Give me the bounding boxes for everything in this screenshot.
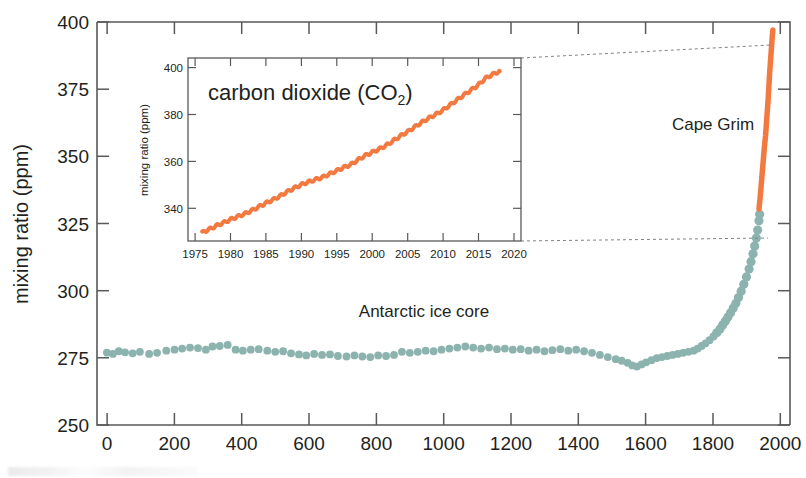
ice-core-point <box>517 345 525 353</box>
ice-core-point <box>604 353 612 361</box>
ice-core-point <box>374 352 382 360</box>
ice-core-point <box>209 343 217 351</box>
ice-core-point <box>334 352 342 360</box>
main-xtick-2000: 2000 <box>759 433 801 454</box>
ice-core-point <box>753 225 762 234</box>
ice-core-point <box>398 348 406 356</box>
ice-core-point <box>556 345 564 353</box>
main-y-axis-title: mixing ratio (ppm) <box>10 144 32 304</box>
ice-core-point <box>216 342 224 350</box>
ice-core-point <box>414 348 422 356</box>
main-xtick-600: 600 <box>293 433 325 454</box>
ice-core-point <box>271 348 279 356</box>
ice-core-point <box>564 347 572 355</box>
inset-xtick-2000: 2000 <box>359 248 385 260</box>
inset-xtick-1975: 1975 <box>182 248 208 260</box>
ice-core-point <box>422 347 430 355</box>
ice-core-point <box>136 348 144 356</box>
ice-core-point <box>469 344 477 352</box>
ice-core-point <box>596 351 604 359</box>
ice-core-point <box>287 349 295 357</box>
cape-grim-series <box>759 30 773 209</box>
inset-title-subscript: 2 <box>398 92 406 108</box>
ice-core-point <box>588 349 596 357</box>
ice-core-point <box>178 345 186 353</box>
ice-core-point <box>390 351 398 359</box>
inset-y-ticklabels: 340 360 380 400 <box>164 62 183 215</box>
inset-ytick-360: 360 <box>164 156 183 168</box>
ice-core-point <box>162 347 170 355</box>
main-ytick-375: 375 <box>57 79 89 100</box>
main-xtick-0: 0 <box>102 433 113 454</box>
ice-core-point <box>430 347 438 355</box>
inset-axes: 340 360 380 400 <box>138 58 527 260</box>
cape-grim-label: Cape Grim <box>672 115 754 134</box>
inset-y-axis-title: mixing ratio (ppm) <box>138 104 150 196</box>
inset-xtick-1980: 1980 <box>218 248 244 260</box>
ice-core-point <box>446 345 454 353</box>
inset-title: carbon dioxide (CO2) <box>208 80 413 108</box>
ice-core-point <box>129 349 137 357</box>
ice-core-point <box>224 341 232 349</box>
ice-core-point <box>485 344 493 352</box>
main-x-ticklabels: 0 200 400 600 800 1000 1200 1400 1600 18… <box>102 433 802 454</box>
inset-xtick-1995: 1995 <box>324 248 350 260</box>
ice-core-point <box>493 345 501 353</box>
ice-core-point <box>318 351 326 359</box>
connector-bottom <box>521 238 768 241</box>
inset-x-ticklabels: 1975 1980 1985 1990 1995 2000 2005 2010 … <box>182 248 526 260</box>
main-ytick-400: 400 <box>57 12 89 33</box>
ice-core-point <box>263 347 271 355</box>
main-ytick-300: 300 <box>57 281 89 302</box>
main-ytick-275: 275 <box>57 348 89 369</box>
main-ytick-250: 250 <box>57 415 89 436</box>
ice-core-point <box>194 344 202 352</box>
ice-core-point <box>453 344 461 352</box>
ice-core-point <box>549 346 557 354</box>
inset-ytick-340: 340 <box>164 203 183 215</box>
ice-core-point <box>351 352 359 360</box>
main-xtick-800: 800 <box>361 433 393 454</box>
main-xtick-1600: 1600 <box>624 433 666 454</box>
ice-core-point <box>580 347 588 355</box>
ice-core-point <box>295 351 303 359</box>
page-edge-artifact <box>8 467 198 476</box>
ice-core-point <box>750 241 759 250</box>
main-ytick-350: 350 <box>57 146 89 167</box>
ice-core-point <box>533 346 541 354</box>
main-y-ticklabels: 250 275 300 325 350 375 400 <box>57 12 89 436</box>
ice-core-point <box>186 344 194 352</box>
inset-xtick-1985: 1985 <box>253 248 279 260</box>
inset-xtick-2020: 2020 <box>501 248 527 260</box>
ice-core-point <box>326 351 334 359</box>
main-ytick-325: 325 <box>57 214 89 235</box>
ice-core-point <box>742 272 751 281</box>
ice-core-point <box>239 347 247 355</box>
main-xtick-1200: 1200 <box>490 433 532 454</box>
chart-svg: 250 275 300 325 350 375 400 <box>0 0 806 478</box>
ice-core-point <box>171 346 179 354</box>
ice-core-point <box>501 345 509 353</box>
ice-core-point <box>748 249 757 258</box>
inset-ytick-400: 400 <box>164 62 183 74</box>
inset-ytick-380: 380 <box>164 109 183 121</box>
ice-core-point <box>121 348 129 356</box>
ice-core-point <box>525 347 533 355</box>
ice-core-point <box>746 257 755 266</box>
ice-core-point <box>255 345 263 353</box>
ice-core-point <box>358 353 366 361</box>
main-xtick-1000: 1000 <box>423 433 465 454</box>
connector-top <box>521 45 771 58</box>
main-xtick-1400: 1400 <box>557 433 599 454</box>
ice-core-point <box>302 352 310 360</box>
inset-xtick-2015: 2015 <box>466 248 492 260</box>
ice-core-point <box>247 346 255 354</box>
inset-xtick-2010: 2010 <box>430 248 456 260</box>
ice-core-point <box>509 346 517 354</box>
ice-core-point <box>382 352 390 360</box>
ice-core-point <box>572 346 580 354</box>
main-xtick-1800: 1800 <box>692 433 734 454</box>
ice-core-point <box>145 350 153 358</box>
main-xtick-400: 400 <box>226 433 258 454</box>
ice-core-point <box>461 343 469 351</box>
